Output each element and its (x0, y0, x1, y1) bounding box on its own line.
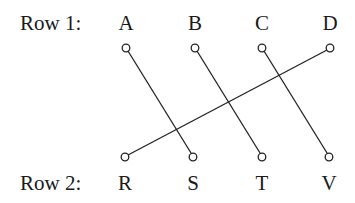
node-t-circle (258, 153, 266, 161)
node-b-circle (191, 44, 199, 52)
connection-d-r (128, 50, 327, 155)
node-d-circle (326, 44, 334, 52)
node-s-circle (189, 153, 197, 161)
node-v-circle (325, 153, 333, 161)
node-c-circle (258, 44, 266, 52)
node-r-circle (121, 153, 129, 161)
connection-diagram (0, 0, 355, 203)
node-a-circle (122, 44, 130, 52)
